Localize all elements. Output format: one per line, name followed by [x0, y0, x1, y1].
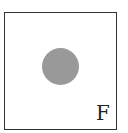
figure-label: F	[96, 102, 110, 124]
figure-frame: F	[4, 12, 117, 130]
gray-circle	[42, 48, 79, 85]
